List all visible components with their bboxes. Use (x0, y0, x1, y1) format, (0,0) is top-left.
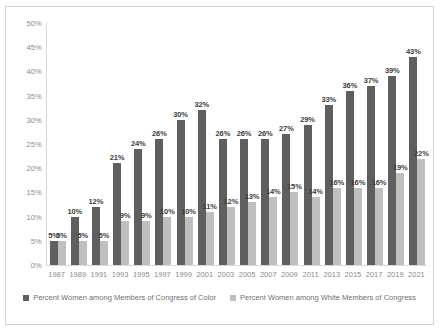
bar-value-label: 21% (110, 153, 125, 162)
legend-label: Percent Women among Members of Congress … (33, 293, 216, 302)
bar-value-label: 22% (414, 149, 429, 158)
bar-value-label: 26% (237, 129, 252, 138)
x-axis-tick: 2007 (260, 270, 277, 279)
x-axis: 1987198919911993199519971999200120032005… (46, 265, 427, 284)
bar-group: 27%15% (280, 23, 301, 265)
bar-members-of-color: 27% (282, 134, 290, 265)
bar-value-label: 5% (77, 231, 88, 240)
y-axis-tick: 45% (26, 43, 42, 52)
bar-value-label: 16% (329, 178, 344, 187)
x-axis-tick: 1997 (154, 270, 171, 279)
bar-group: 37%16% (365, 23, 386, 265)
bar-white-members: 14% (269, 197, 277, 265)
legend-swatch-icon (230, 295, 236, 301)
bar-value-label: 16% (351, 178, 366, 187)
plot-area: 5%5%10%5%12%5%21%9%24%9%26%10%30%10%32%1… (46, 23, 427, 265)
y-axis-tick: 20% (26, 164, 42, 173)
bar-white-members: 16% (354, 188, 362, 265)
x-axis-tick: 2015 (345, 270, 362, 279)
legend-swatch-icon (23, 295, 29, 301)
bar-group: 24%9% (132, 23, 153, 265)
bar-value-label: 10% (181, 207, 196, 216)
bar-value-label: 10% (67, 207, 82, 216)
chart-container: 0%5%10%15%20%25%30%35%40%45%50% 5%5%10%5… (5, 6, 434, 325)
bar-members-of-color: 32% (198, 110, 206, 265)
bar-white-members: 10% (185, 217, 193, 265)
x-axis-tick: 2019 (387, 270, 404, 279)
bar-members-of-color: 26% (155, 139, 163, 265)
x-axis-tick: 2011 (303, 270, 319, 279)
bar-white-members: 16% (333, 188, 341, 265)
x-axis-tick: 2003 (218, 270, 235, 279)
bar-white-members: 16% (375, 188, 383, 265)
bar-group: 12%5% (89, 23, 110, 265)
y-axis-tick: 15% (26, 188, 42, 197)
y-axis-tick: 40% (26, 67, 42, 76)
bar-value-label: 27% (279, 124, 294, 133)
y-axis: 0%5%10%15%20%25%30%35%40%45%50% (6, 7, 46, 266)
y-axis-tick: 50% (26, 19, 42, 28)
bar-white-members: 9% (142, 221, 150, 265)
bar-members-of-color: 10% (71, 217, 79, 265)
bar-white-members: 15% (290, 192, 298, 265)
bar-white-members: 5% (58, 241, 66, 265)
x-axis-tick: 1987 (48, 270, 65, 279)
x-axis-tick: 2021 (408, 270, 425, 279)
bar-value-label: 30% (173, 110, 188, 119)
bar-value-label: 26% (258, 129, 273, 138)
bar-members-of-color: 5% (50, 241, 58, 265)
bar-white-members: 11% (206, 212, 214, 265)
bar-white-members: 9% (121, 221, 129, 265)
bar-value-label: 14% (266, 187, 281, 196)
bar-value-label: 26% (216, 129, 231, 138)
x-axis-tick: 1993 (112, 270, 129, 279)
bar-group: 33%16% (322, 23, 343, 265)
bar-value-label: 26% (152, 129, 167, 138)
bar-value-label: 11% (203, 202, 217, 211)
chart-legend: Percent Women among Members of Congress … (6, 293, 433, 302)
y-axis-tick: 10% (26, 212, 42, 221)
bar-value-label: 12% (224, 197, 239, 206)
bar-value-label: 19% (393, 163, 408, 172)
bar-group: 43%22% (407, 23, 428, 265)
y-axis-tick: 30% (26, 115, 42, 124)
bar-white-members: 19% (396, 173, 404, 265)
bar-value-label: 29% (300, 115, 315, 124)
bar-value-label: 43% (406, 47, 421, 56)
legend-label: Percent Women among White Members of Con… (240, 293, 416, 302)
y-axis-tick: 35% (26, 91, 42, 100)
bar-group: 26%10% (153, 23, 174, 265)
bar-value-label: 32% (194, 100, 209, 109)
bar-white-members: 12% (227, 207, 235, 265)
bar-group: 32%11% (195, 23, 216, 265)
bar-value-label: 13% (245, 192, 260, 201)
bar-group: 30%10% (174, 23, 195, 265)
x-axis-tick: 2001 (196, 270, 213, 279)
bar-group: 26%14% (259, 23, 280, 265)
x-axis-tick: 2005 (239, 270, 256, 279)
x-axis-tick: 2013 (323, 270, 340, 279)
bar-value-label: 14% (308, 187, 323, 196)
bar-white-members: 5% (79, 241, 87, 265)
bar-white-members: 13% (248, 202, 256, 265)
bar-value-label: 5% (99, 231, 110, 240)
bar-value-label: 10% (160, 207, 175, 216)
bar-value-label: 33% (321, 95, 336, 104)
x-axis-tick: 2009 (281, 270, 298, 279)
legend-item[interactable]: Percent Women among White Members of Con… (230, 293, 416, 302)
bar-group: 10%5% (68, 23, 89, 265)
bar-members-of-color: 30% (177, 120, 185, 265)
bar-group: 36%16% (343, 23, 364, 265)
x-axis-tick: 2017 (366, 270, 383, 279)
x-axis-tick: 1991 (91, 270, 108, 279)
bar-value-label: 37% (364, 76, 379, 85)
bar-white-members: 14% (312, 197, 320, 265)
bar-members-of-color: 24% (134, 149, 142, 265)
bar-value-label: 12% (89, 197, 104, 206)
legend-item[interactable]: Percent Women among Members of Congress … (23, 293, 216, 302)
bar-value-label: 15% (287, 182, 302, 191)
x-axis-tick: 1999 (175, 270, 192, 279)
bar-group: 5%5% (47, 23, 68, 265)
bar-group: 39%19% (386, 23, 407, 265)
bar-white-members: 22% (417, 159, 425, 265)
